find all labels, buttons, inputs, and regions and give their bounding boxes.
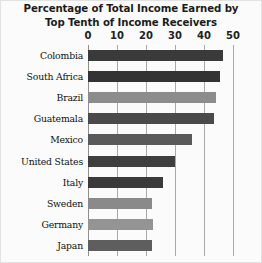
bar-row: Brazil: [0, 87, 262, 108]
category-label-brazil: Brazil: [0, 92, 83, 103]
x-tick-label-20: 20: [139, 30, 153, 41]
bar-sweden: [88, 198, 152, 209]
chart-title-line-2: Top Tenth of Income Receivers: [0, 16, 262, 30]
category-label-mexico: Mexico: [0, 134, 83, 145]
x-tick-label-50: 50: [226, 30, 240, 41]
bar-row: Germany: [0, 214, 262, 235]
x-tick-label-10: 10: [110, 30, 124, 41]
x-tick-label-40: 40: [197, 30, 211, 41]
chart-title: Percentage of Total Income Earned by Top…: [0, 2, 262, 29]
category-label-colombia: Colombia: [0, 50, 83, 61]
bar-mexico: [88, 134, 192, 145]
bar-chart: Percentage of Total Income Earned by Top…: [0, 0, 262, 263]
bar-row: Japan: [0, 235, 262, 256]
chart-title-line-1: Percentage of Total Income Earned by: [0, 2, 262, 16]
x-axis-tick-labels: 01020304050: [0, 30, 262, 43]
bar-south-africa: [88, 71, 220, 82]
x-tick-label-0: 0: [85, 30, 92, 41]
category-label-guatemala: Guatemala: [0, 113, 83, 124]
bar-rows: ColombiaSouth AfricaBrazilGuatemalaMexic…: [0, 45, 262, 256]
bar-row: Colombia: [0, 45, 262, 66]
bar-row: Guatemala: [0, 108, 262, 129]
bar-united-states: [88, 156, 175, 167]
bar-japan: [88, 240, 152, 251]
category-label-germany: Germany: [0, 219, 83, 230]
bar-row: United States: [0, 151, 262, 172]
category-label-south-africa: South Africa: [0, 71, 83, 82]
category-label-united-states: United States: [0, 156, 83, 167]
bar-colombia: [88, 50, 223, 61]
bar-brazil: [88, 92, 216, 103]
category-label-japan: Japan: [0, 240, 83, 251]
bar-italy: [88, 177, 163, 188]
category-label-italy: Italy: [0, 177, 83, 188]
bar-row: Sweden: [0, 193, 262, 214]
bar-row: South Africa: [0, 66, 262, 87]
bar-row: Mexico: [0, 129, 262, 150]
bar-guatemala: [88, 113, 214, 124]
x-tick-label-30: 30: [168, 30, 182, 41]
bar-germany: [88, 219, 153, 230]
bar-row: Italy: [0, 172, 262, 193]
category-label-sweden: Sweden: [0, 198, 83, 209]
